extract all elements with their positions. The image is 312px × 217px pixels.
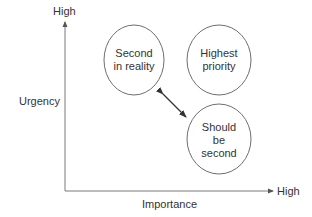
node-highest-priority-text: Highest priority [200, 47, 237, 73]
y-axis-label: Urgency [19, 95, 60, 107]
x-axis-label: Importance [142, 198, 197, 210]
x-axis-high-label: High [277, 185, 300, 197]
node-second-in-reality-text: Second in reality [114, 47, 155, 73]
y-axis-high-label: High [53, 5, 76, 17]
diagram-canvas [0, 0, 312, 217]
double-arrow [163, 94, 186, 117]
node-should-be-second-text: Should be second [201, 121, 236, 160]
